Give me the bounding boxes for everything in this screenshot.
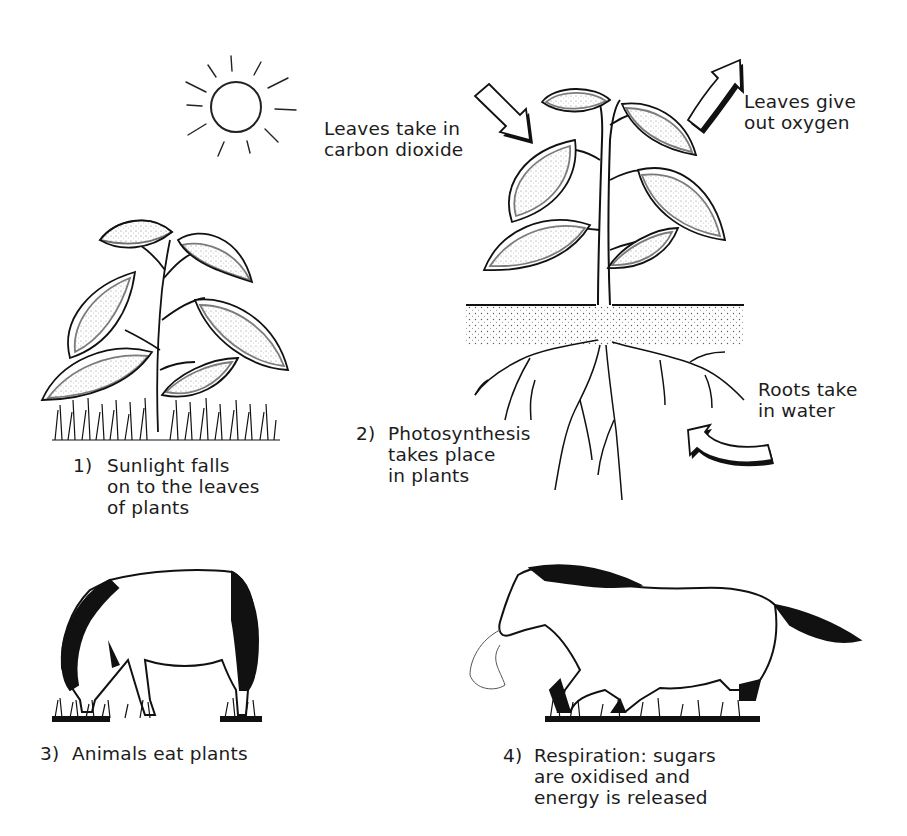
o2-annotation: Leaves give out oxygen [744,91,856,133]
arrow-out-icon [688,60,744,134]
small-plant-illustration [42,220,288,440]
running-horse-illustration [470,565,860,722]
arrow-in-icon [475,84,533,144]
water-annotation: Roots take in water [758,379,857,421]
curved-arrow-icon [688,425,774,466]
sun-icon [186,56,296,156]
grazing-horse-illustration [52,570,262,722]
co2-annotation: Leaves take in carbon dioxide [324,118,463,160]
